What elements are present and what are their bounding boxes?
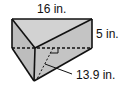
height-label: 5 in. (96, 28, 119, 40)
length-label: 16 in. (37, 3, 66, 15)
triangle-height-label: 13.9 in. (76, 69, 115, 81)
